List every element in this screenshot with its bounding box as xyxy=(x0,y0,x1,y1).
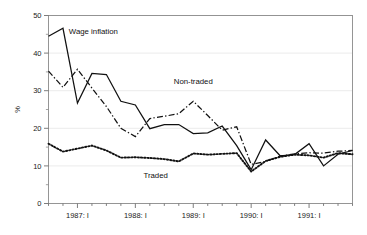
x-tick-label-4: 1991: I xyxy=(298,211,321,220)
line-chart: 01020304050%1987: I1988: I1989: I1990: I… xyxy=(0,0,367,235)
y-tick-label-30: 30 xyxy=(33,86,41,95)
y-axis-title: % xyxy=(13,106,22,113)
y-tick-label-10: 10 xyxy=(33,162,41,171)
x-tick-label-1: 1988: I xyxy=(124,211,147,220)
y-tick-label-40: 40 xyxy=(33,49,41,58)
series-annotation-wage-inflation: Wage inflation xyxy=(69,27,118,36)
series-line-traded xyxy=(49,144,353,172)
series-annotation-traded: Traded xyxy=(143,171,167,180)
series-line-wage-inflation xyxy=(49,28,353,169)
plot-frame xyxy=(49,16,353,204)
series-annotation-non-traded: Non-traded xyxy=(174,77,213,86)
chart-figure: 01020304050%1987: I1988: I1989: I1990: I… xyxy=(0,0,367,235)
x-tick-label-2: 1989: I xyxy=(182,211,205,220)
y-tick-label-50: 50 xyxy=(33,11,41,20)
y-tick-label-20: 20 xyxy=(33,124,41,133)
x-tick-label-3: 1990: I xyxy=(240,211,263,220)
y-tick-label-0: 0 xyxy=(37,199,41,208)
x-tick-label-0: 1987: I xyxy=(66,211,89,220)
